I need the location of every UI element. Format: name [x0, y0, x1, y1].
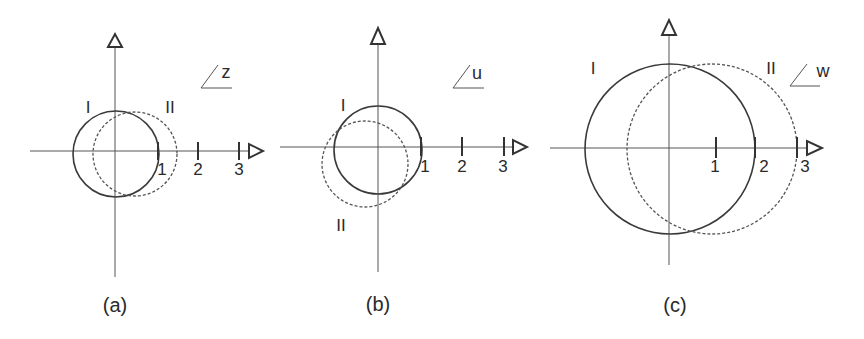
curve-label-I: I: [591, 59, 596, 78]
x-axis-arrow-icon: [513, 140, 527, 154]
curve-I: [73, 111, 159, 197]
variable-label: z: [222, 62, 231, 82]
panel-caption: (a): [103, 294, 127, 316]
tick-label-3: 3: [234, 160, 243, 179]
panel-b: 1 2 3 I II u (b): [280, 28, 527, 315]
three-panel-circle-diagram: 1 2 3 I II z (a) 1 2 3 I II u (b): [0, 0, 864, 339]
curve-II: [627, 64, 797, 234]
curve-I: [585, 64, 755, 234]
variable-label: w: [816, 61, 831, 81]
x-axis-arrow-icon: [249, 144, 263, 158]
curve-II: [93, 112, 177, 196]
tick-label-1: 1: [420, 157, 429, 176]
curve-II: [322, 121, 408, 207]
x-axis-arrow-icon: [807, 141, 822, 155]
curve-label-II: II: [165, 98, 174, 117]
panel-caption: (c): [663, 294, 686, 316]
curve-label-II: II: [336, 216, 345, 235]
y-axis-arrow-icon: [108, 34, 122, 47]
panel-a: 1 2 3 I II z (a): [30, 34, 263, 316]
panel-caption: (b): [366, 293, 390, 315]
y-axis-arrow-icon: [662, 20, 676, 35]
y-axis-arrow-icon: [371, 28, 385, 44]
tick-label-1: 1: [157, 160, 166, 179]
variable-label: u: [472, 63, 482, 83]
curve-label-II: II: [766, 59, 775, 78]
tick-label-1: 1: [710, 157, 719, 176]
tick-label-2: 2: [759, 157, 768, 176]
curve-label-I: I: [341, 96, 346, 115]
curve-label-I: I: [86, 98, 91, 117]
panel-c: 1 2 3 I II w (c): [550, 20, 831, 316]
tick-label-3: 3: [498, 157, 507, 176]
tick-label-2: 2: [457, 157, 466, 176]
tick-label-2: 2: [193, 160, 202, 179]
tick-label-3: 3: [800, 157, 809, 176]
angle-icon: [790, 64, 820, 86]
